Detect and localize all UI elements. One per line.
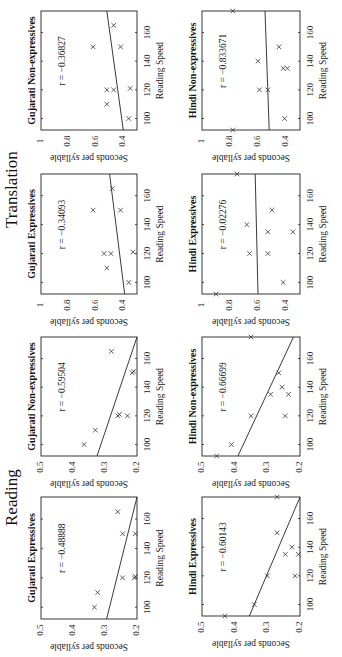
y-tick-label: 0.3 [261,461,271,473]
y-tick-label: 0.3 [261,621,271,633]
x-tick-label: 100 [142,275,152,289]
y-tick-label: 0.3 [99,461,109,473]
data-point-marker [132,369,137,374]
scatter-panel: 10012014016010.80.60.4Reading SpeedSecon… [187,172,328,327]
y-tick-label: 0.2 [131,624,141,635]
x-tick-label: 120 [142,409,152,423]
data-point-marker [280,385,285,390]
plot-frame [41,337,137,456]
x-tick-label: 160 [142,25,152,39]
correlation-annotation: r = −0.48888 [57,523,67,573]
x-tick-label: 100 [305,437,315,451]
x-axis-label: Reading Speed [318,368,328,426]
data-point-marker [105,88,110,93]
x-axis-label: Reading Speed [318,42,328,100]
plot-frame [202,174,300,294]
y-tick-label: 0.4 [117,299,127,311]
y-axis-label: Seconds per syllable [50,479,128,489]
x-tick-label: 100 [305,275,315,289]
x-axis-label: Reading Speed [318,205,328,263]
x-tick-label: 100 [142,437,152,451]
x-tick-label: 160 [305,188,315,202]
correlation-annotation: r = −0.60143 [218,522,228,572]
data-point-marker [256,59,261,64]
y-tick-label: 0.3 [99,624,109,636]
y-tick-label: 0.8 [224,135,234,147]
data-point-marker [91,208,96,213]
data-point-marker [229,442,234,447]
data-point-marker [92,605,97,610]
scatter-panel: 10012014016010.80.60.4Reading SpeedSecon… [187,9,328,163]
x-tick-label: 140 [305,380,315,394]
x-axis-label: Reading Speed [155,42,165,100]
panel-title: Gujarati Expressives [26,189,37,279]
x-tick-label: 160 [142,351,152,365]
data-point-marker [120,531,125,536]
data-point-marker [93,428,98,433]
fit-line [255,174,258,294]
data-point-marker [290,545,295,550]
plot-frame [41,497,137,619]
x-axis-label: Reading Speed [155,368,165,426]
scatter-panel: 1001201401600.50.40.30.2Reading SpeedSec… [187,495,328,649]
scatter-panel: 10012014016010.80.60.4Reading SpeedSecon… [26,174,165,327]
data-point-marker [109,251,114,256]
scatter-panel: 1001201401600.50.40.30.2Reading SpeedSec… [187,335,328,489]
y-axis-label: Seconds per syllable [212,317,290,327]
fit-line [265,11,269,130]
correlation-annotation: r = −0.34093 [57,199,67,249]
x-tick-label: 120 [305,569,315,583]
data-point-marker [105,266,110,271]
data-point-marker [126,280,131,285]
data-point-marker [82,442,87,447]
y-tick-label: 0.4 [67,624,77,636]
y-tick-label: 0.4 [229,461,239,473]
y-tick-label: 0.2 [294,461,304,472]
x-tick-label: 140 [142,380,152,394]
y-tick-label: 0.4 [67,461,77,473]
scatter-panel: 1001201401600.50.40.30.2Reading SpeedSec… [26,497,165,652]
data-point-marker [266,251,271,256]
x-tick-label: 160 [305,511,315,525]
data-point-marker [111,88,116,93]
data-point-marker [285,66,290,71]
panel-title: Gujarati Non-expressives [26,342,37,451]
x-axis-label: Reading Speed [318,528,328,586]
y-tick-label: 0.5 [35,461,45,473]
y-tick-label: 0.6 [90,299,100,311]
y-axis-label: Seconds per syllable [50,153,128,163]
y-tick-label: 0.2 [294,621,304,632]
x-tick-label: 160 [142,512,152,526]
data-point-marker [275,531,280,536]
scatter-panel: 10012014016010.80.60.4Reading SpeedSecon… [26,11,165,163]
panel-title: Hindi Non-expressives [187,349,198,445]
y-tick-label: 0.4 [117,135,127,147]
data-point-marker [266,230,271,235]
data-point-marker [291,230,296,235]
y-tick-label: 0.4 [229,621,239,633]
data-point-marker [126,116,131,121]
y-axis-label: Seconds per syllable [50,642,128,652]
correlation-annotation: r = −0.66699 [218,362,228,412]
panel-title: Hindi Non-expressives [187,23,198,119]
fit-line [249,497,300,616]
y-tick-label: 0.4 [280,299,290,311]
y-axis-label: Seconds per syllable [212,153,290,163]
panel-title: Gujarati Non-expressives [26,16,37,125]
data-point-marker [281,66,286,71]
y-tick-label: 1 [35,139,45,144]
data-point-marker [91,45,96,50]
data-point-marker [277,45,282,50]
x-tick-label: 120 [142,571,152,585]
data-point-marker [249,414,254,419]
y-axis-label: Seconds per syllable [212,479,290,489]
y-tick-label: 1 [196,303,206,308]
y-tick-label: 0.8 [62,299,72,311]
data-point-marker [283,414,288,419]
x-axis-label: Reading Speed [155,529,165,587]
data-point-marker [268,392,273,397]
data-point-marker [109,349,114,354]
x-tick-label: 140 [142,54,152,68]
plot-frame [202,497,300,616]
data-point-marker [293,574,298,579]
